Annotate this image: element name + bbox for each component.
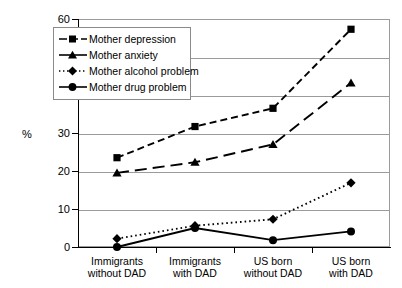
legend-item-drug: Mother drug problem bbox=[58, 79, 186, 95]
y-tick-60 bbox=[72, 19, 79, 20]
x-tick-3 bbox=[312, 247, 313, 253]
legend: Mother depression Mother anxiety Mother … bbox=[53, 27, 191, 100]
y-tick-label-60: 60 bbox=[44, 14, 70, 25]
legend-sample-alcohol bbox=[58, 64, 88, 78]
y-tick-label-20: 20 bbox=[44, 166, 70, 177]
y-axis-title: % bbox=[22, 129, 32, 140]
x-axis-label-3-line1: US born bbox=[302, 255, 400, 267]
legend-item-alcohol: Mother alcohol problem bbox=[58, 63, 186, 79]
y-tick-30 bbox=[72, 133, 79, 134]
y-tick-label-10: 10 bbox=[44, 204, 70, 215]
line-chart: 60 50 40 30 20 10 0 % Immigrants without… bbox=[0, 0, 402, 288]
legend-label-drug: Mother drug problem bbox=[89, 82, 186, 93]
y-tick-10 bbox=[72, 209, 79, 210]
gridline-10 bbox=[79, 210, 389, 211]
legend-item-depression: Mother depression bbox=[58, 31, 186, 47]
y-tick-label-30: 30 bbox=[44, 128, 70, 139]
y-tick-20 bbox=[72, 171, 79, 172]
x-axis-label-3-line2: with DAD bbox=[302, 267, 400, 279]
y-tick-label-0: 0 bbox=[44, 242, 70, 253]
x-axis-label-3: US born with DAD bbox=[302, 255, 400, 279]
x-tick-1 bbox=[156, 247, 157, 253]
legend-label-anxiety: Mother anxiety bbox=[89, 50, 158, 61]
legend-label-depression: Mother depression bbox=[89, 34, 176, 45]
legend-item-anxiety: Mother anxiety bbox=[58, 47, 186, 63]
legend-label-alcohol: Mother alcohol problem bbox=[89, 66, 199, 77]
x-tick-2 bbox=[234, 247, 235, 253]
legend-sample-depression bbox=[58, 32, 88, 46]
legend-sample-anxiety bbox=[58, 48, 88, 62]
y-tick-0 bbox=[72, 247, 79, 248]
legend-sample-drug bbox=[58, 80, 88, 94]
gridline-20 bbox=[79, 172, 389, 173]
gridline-30 bbox=[79, 134, 389, 135]
